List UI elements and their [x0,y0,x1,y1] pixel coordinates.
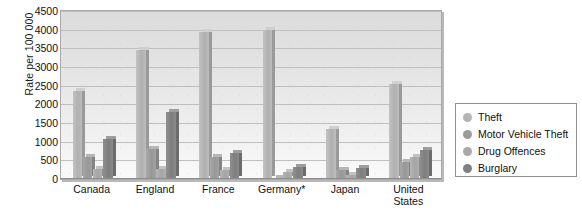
bar-top-face [329,126,339,129]
bar-top-face [149,146,159,149]
bar-top-face [202,29,212,32]
y-axis-tick: 2000 [35,99,58,110]
bar-chart: Rate per 100 000 45004000350030002500200… [0,0,582,213]
bar-group [124,11,187,179]
bar [400,162,410,179]
bar-side-face [239,150,242,176]
y-axis-tick: 1000 [35,136,58,147]
bar-side-face [113,136,116,176]
bar-front-face [230,153,240,179]
bar-front-face [199,32,209,179]
plot-area [60,10,442,180]
legend-item[interactable]: Drug Offences [463,143,576,159]
bar-group [314,11,377,179]
legend-item[interactable]: Motor Vehicle Theft [463,126,576,142]
y-axis-tick-labels: 450040003500300025002000150010005000 [20,0,58,213]
x-axis-label: England [123,184,186,196]
bar-top-face [86,154,96,157]
legend-label: Motor Vehicle Theft [478,129,568,140]
legend-marker-icon [463,147,472,156]
x-axis-label: United States [377,184,440,207]
bar-side-face [336,126,339,176]
legend-marker-icon [463,164,472,173]
bar-group [378,11,441,179]
bar [146,149,156,179]
bar-front-face [146,149,156,179]
bar-top-face [106,136,116,139]
x-axis-label: Japan [313,184,376,196]
bar-front-face [83,157,93,179]
bar-group [251,11,314,179]
bar-front-face [326,129,336,179]
legend-item[interactable]: Burglary [463,160,576,176]
bar-top-face [213,154,223,157]
bar [210,157,220,179]
bar-side-face [429,147,432,176]
bar [263,30,273,179]
bar-group [61,11,124,179]
bar [83,157,93,179]
y-axis-tick: 3500 [35,43,58,54]
bar-group [188,11,251,179]
bar [410,157,420,179]
legend-label: Drug Offences [478,146,546,157]
x-axis-category-labels: CanadaEnglandFranceGermany*JapanUnited S… [60,184,442,213]
bar-top-face [296,164,306,167]
bar-front-face [166,112,176,179]
bar-front-face [73,91,83,179]
legend-marker-icon [463,130,472,139]
bar [199,32,209,179]
bar-top-face [233,150,243,153]
bar [136,50,146,179]
y-axis-tick: 4000 [35,24,58,35]
legend-label: Theft [478,112,502,123]
y-axis-tick: 4500 [35,6,58,17]
bar [103,139,113,179]
bar-side-face [272,27,275,176]
bar-side-face [176,109,179,176]
legend-item[interactable]: Theft [463,109,576,125]
y-axis-tick: 500 [40,155,58,166]
bar-front-face [263,30,273,179]
bar-front-face [420,150,430,179]
bar-front-face [103,139,113,179]
bar-front-face [210,157,220,179]
bar-front-face [389,84,399,179]
y-axis-tick: 2500 [35,80,58,91]
bar-side-face [209,29,212,176]
y-axis-tick: 3000 [35,62,58,73]
chart-legend: TheftMotor Vehicle TheftDrug OffencesBur… [455,103,577,177]
bar-top-face [359,165,369,168]
x-axis-baseline [61,178,441,179]
legend-marker-icon [463,113,472,122]
bar-top-face [76,88,86,91]
bar-top-face [266,27,276,30]
bar-top-face [423,147,433,150]
bar-front-face [136,50,146,179]
x-axis-label: Germany* [250,184,313,196]
bar [326,129,336,179]
bar [73,91,83,179]
bar-front-face [410,157,420,179]
bar [230,153,240,179]
bar-top-face [339,167,349,170]
bar-front-face [400,162,410,179]
bar-top-face [392,81,402,84]
x-axis-label: Canada [60,184,123,196]
x-axis-label: France [187,184,250,196]
bar [389,84,399,179]
y-axis-tick: 1500 [35,118,58,129]
bar-top-face [169,109,179,112]
bar [166,112,176,179]
legend-label: Burglary [478,163,517,174]
bar [420,150,430,179]
y-axis-tick: 0 [52,174,58,185]
bar-top-face [139,47,149,50]
